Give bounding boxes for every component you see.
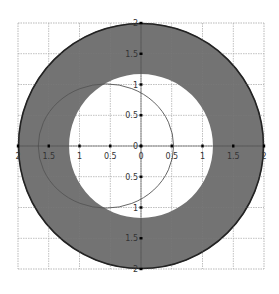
y-tick-label: 1 — [133, 81, 138, 90]
x-tick-mark — [17, 145, 19, 148]
y-tick-label: 1 — [133, 204, 138, 213]
y-tick-label: 0.5 — [125, 111, 138, 120]
x-tick-label: 2 — [15, 152, 20, 161]
x-tick-label: 1 — [77, 152, 82, 161]
x-tick-label: 0.5 — [165, 152, 178, 161]
y-tick-mark — [140, 53, 143, 55]
x-tick-label: 0.5 — [104, 152, 117, 161]
x-tick-mark — [201, 145, 203, 148]
y-tick-mark — [140, 268, 143, 270]
polar-ring-chart: 21.510.500.511.52 21.510.500.511.52 — [0, 0, 279, 294]
x-tick-mark — [232, 145, 234, 148]
y-tick-label: 1.5 — [125, 50, 138, 59]
y-tick-mark — [140, 237, 143, 239]
x-tick-label: 1.5 — [42, 152, 55, 161]
y-tick-mark — [140, 206, 143, 208]
x-tick-mark — [109, 145, 111, 148]
x-tick-mark — [48, 145, 50, 148]
x-tick-label: 2 — [261, 152, 266, 161]
y-tick-mark — [140, 145, 143, 147]
y-tick-label: 2 — [133, 265, 138, 274]
x-tick-mark — [78, 145, 80, 148]
y-tick-mark — [140, 22, 143, 24]
y-tick-label: 0.5 — [125, 173, 138, 182]
y-tick-mark — [140, 114, 143, 116]
x-tick-mark — [171, 145, 173, 148]
x-tick-label: 1 — [200, 152, 205, 161]
y-tick-label: 0 — [133, 142, 138, 151]
y-tick-label: 2 — [133, 19, 138, 28]
y-tick-mark — [140, 176, 143, 178]
y-tick-mark — [140, 83, 143, 85]
x-tick-mark — [263, 145, 265, 148]
x-tick-label: 0 — [138, 152, 143, 161]
y-tick-label: 1.5 — [125, 234, 138, 243]
x-tick-label: 1.5 — [227, 152, 240, 161]
